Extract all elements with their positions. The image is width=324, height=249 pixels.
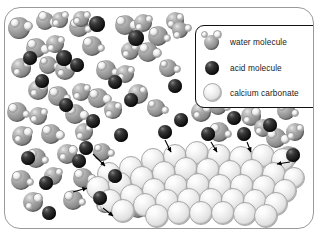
acid-molecule [114,128,128,142]
hydrogen-atom [148,100,156,108]
hydrogen-atom [105,110,113,118]
hydrogen-atom [42,125,52,135]
acid-molecule [86,114,100,128]
calcium-carbonate-particle [211,201,235,225]
hydrogen-atom [52,19,60,27]
hydrogen-atom [30,115,38,123]
legend-item-calcium-carbonate: calcium carbonate [196,80,314,106]
hydrogen-atom [78,198,86,206]
hydrogen-atom [59,153,67,161]
hydrogen-atom [97,61,107,71]
calcium-carbonate-particle [111,199,135,223]
hydrogen-atom [61,11,69,19]
acid-molecule [174,113,188,127]
hydrogen-atom [55,130,65,140]
acid-molecule [89,16,105,32]
acid-molecule [128,30,144,46]
acid-molecule [201,127,215,141]
hydrogen-atom [116,16,126,26]
calcium-carbonate-particle [254,204,278,228]
hydrogen-atom [40,108,48,116]
hydrogen-atom [74,169,84,179]
hydrogen-atom [13,68,21,76]
hydrogen-atom [89,89,99,99]
legend-label-water-molecule: water molecule [230,38,287,46]
hydrogen-atom [12,171,22,181]
hydrogen-atom [243,116,251,124]
hydrogen-atom [25,202,33,210]
acid-molecule [237,127,251,141]
hydrogen-atom [23,21,33,31]
acid-molecule [59,98,73,112]
hydrogen-atom [55,168,63,176]
figure-caption [6,236,318,247]
hydrogen-atom [94,144,102,152]
hydrogen-atom [161,106,169,114]
solution-container: water molecule acid molecule calcium car… [4,7,314,229]
acid-molecule [23,51,37,65]
hydrogen-atom [64,191,74,201]
hydrogen-atom [26,178,34,186]
hydrogen-atom [127,66,135,74]
hydrogen-atom [287,132,295,140]
hydrogen-atom [97,44,105,52]
hydrogen-atom [33,193,43,203]
hydrogen-atom [30,89,38,97]
hydrogen-atom [57,36,65,44]
acid-molecule [286,148,300,162]
hydrogen-atom [76,132,84,140]
hydrogen-atom [47,44,55,52]
acid-molecule [72,154,86,168]
hydrogen-atom [160,60,168,68]
acid-molecule [39,176,53,190]
hydrogen-atom [38,11,48,21]
legend: water molecule acid molecule calcium car… [195,25,314,108]
legend-item-water-molecule: water molecule [196,29,314,55]
hydrogen-atom [296,124,304,132]
calcium-carbonate-particle [189,201,213,225]
acid-molecule [79,141,93,155]
hydrogen-atom [176,13,184,21]
acid-molecule [108,169,122,183]
acid-molecule [263,118,277,132]
hydrogen-atom [14,135,22,143]
hydrogen-atom [173,65,181,73]
legend-label-calcium-carbonate: calcium carbonate [230,89,299,97]
hydrogen-atom [152,48,162,58]
hydrogen-atom [251,107,261,117]
hydrogen-atom [23,127,33,137]
hydrogen-atom [41,156,49,164]
hydrogen-atom [73,17,81,25]
water-molecule-icon [200,30,230,54]
hydrogen-atom [114,102,122,110]
acid-molecule [168,79,182,93]
acid-molecule [158,125,172,139]
hydrogen-atom [255,127,263,135]
hydrogen-atom [163,34,171,42]
hydrogen-atom [49,87,59,97]
legend-label-acid-molecule: acid molecule [230,64,282,72]
acid-molecule [42,206,56,220]
particle-diagram-figure: water molecule acid molecule calcium car… [0,0,324,249]
hydrogen-atom [184,24,192,32]
acid-molecule-icon [200,56,230,80]
hydrogen-atom [145,15,153,23]
acid-molecule [35,74,49,88]
acid-molecule [124,93,138,107]
hydrogen-atom [122,50,130,58]
hydrogen-atom [224,130,232,138]
hydrogen-atom [291,109,299,117]
acid-molecule [93,191,107,205]
hydrogen-atom [10,18,20,28]
acid-molecule [227,111,241,125]
hydrogen-atom [73,92,81,100]
hydrogen-atom [173,31,181,39]
hydrogen-atom [83,37,93,47]
hydrogen-atom [27,39,37,49]
hydrogen-atom [83,11,91,19]
hydrogen-atom [57,69,65,77]
acid-molecule [70,58,84,72]
hydrogen-atom [193,111,201,119]
calcium-carbonate-particle [167,201,191,225]
calcium-carbonate-particle [145,204,169,228]
